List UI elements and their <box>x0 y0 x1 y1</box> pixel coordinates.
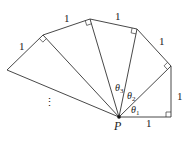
angle-theta-label: θ1 <box>131 104 140 117</box>
right-angle-mark <box>164 62 168 69</box>
side-length-label: 1 <box>159 35 165 47</box>
angle-theta-label: θ2 <box>127 90 136 103</box>
side-length-label: 1 <box>177 90 183 102</box>
radial-line <box>90 19 119 117</box>
unit-edge <box>7 35 43 70</box>
side-length-label: 1 <box>19 40 25 52</box>
right-angle-mark <box>166 112 171 117</box>
side-length-label: 1 <box>64 12 70 24</box>
side-length-label: 1 <box>146 117 152 129</box>
point-p-label: P <box>113 119 122 133</box>
spiral-diagram: P 111111 θ1θ2θ3 ⋮ <box>0 0 190 142</box>
continuation-dots: ⋮ <box>44 96 55 108</box>
radial-line <box>7 70 119 117</box>
right-angle-mark <box>39 38 46 42</box>
spiral-lines <box>7 19 171 117</box>
side-labels: 111111 <box>19 10 183 129</box>
unit-edge <box>90 19 137 29</box>
unit-edge <box>137 29 171 66</box>
angle-theta-label: θ3 <box>115 82 124 95</box>
side-length-label: 1 <box>115 10 121 22</box>
angle-labels: θ1θ2θ3 <box>115 82 140 117</box>
